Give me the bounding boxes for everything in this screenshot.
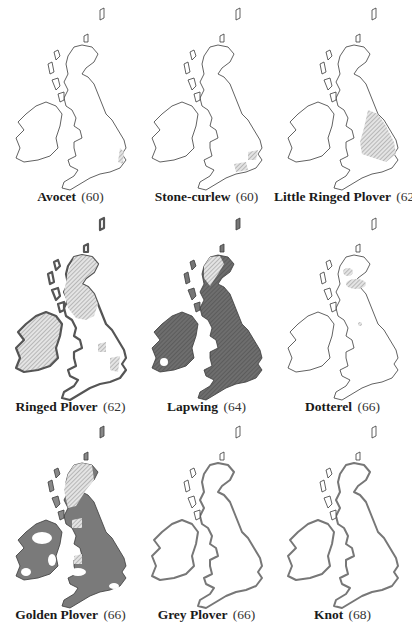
map-panel-knot: Knot (68) [274,420,411,625]
map-stone-curlew [138,2,275,192]
map-little-ringed-plover [274,2,411,192]
map-panel-lapwing: Lapwing (64) [138,212,275,417]
map-panel-stone-curlew: Stone-curlew (60) [138,2,275,207]
distribution-area [346,279,366,289]
map-panel-dotterel: Dotterel (66) [274,212,411,417]
map-caption: Ringed Plover (62) [2,399,139,415]
distribution-gap [160,358,168,366]
map-panel-avocet: Avocet (60) [2,2,139,207]
map-grey-plover [138,420,275,610]
map-panel-golden-plover: Golden Plover (66) [2,420,139,625]
map-ringed-plover [2,212,139,402]
map-dotterel [274,212,411,402]
map-caption: Little Ringed Plover (62) [274,189,411,205]
absent-area [48,554,56,566]
breeding-area [74,554,82,564]
absent-area [109,583,119,589]
map-caption: Knot (68) [274,607,411,623]
map-caption: Stone-curlew (60) [138,189,275,205]
map-panel-little-ringed-plover: Little Ringed Plover (62) [274,2,411,207]
map-panel-ringed-plover: Ringed Plover (62) [2,212,139,417]
map-caption: Dotterel (66) [274,399,411,415]
map-caption: Golden Plover (66) [2,607,139,623]
map-caption: Grey Plover (66) [138,607,275,623]
map-avocet [2,2,139,192]
map-caption: Lapwing (64) [138,399,275,415]
distribution-area [343,268,353,276]
distribution-area [358,322,362,326]
map-lapwing [138,212,275,402]
absent-area [70,568,86,576]
map-panel-grey-plover: Grey Plover (66) [138,420,275,625]
map-golden-plover [2,420,139,610]
map-caption: Avocet (60) [2,189,139,205]
absent-area [21,568,31,576]
absent-area [32,532,52,544]
map-knot [274,420,411,610]
